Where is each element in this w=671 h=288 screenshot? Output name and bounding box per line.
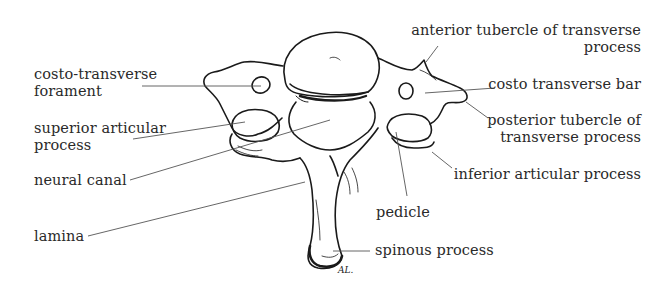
label-lamina: lamina bbox=[34, 228, 84, 245]
spinous-process-tip bbox=[309, 246, 342, 267]
vertebral-body bbox=[284, 32, 379, 97]
right-lamina bbox=[335, 128, 378, 256]
artist-signature: AL. bbox=[338, 265, 353, 275]
right-superior-articular-facet bbox=[387, 114, 431, 142]
left-transverse-process bbox=[204, 61, 283, 136]
label-spinous-process: spinous process bbox=[375, 242, 494, 259]
vertebra-diagram: costo-transverse forament superior artic… bbox=[0, 0, 671, 288]
label-costo-transverse-foramen: costo-transverse forament bbox=[34, 66, 157, 100]
label-neural-canal: neural canal bbox=[34, 172, 127, 189]
right-costo-transverse-foramen bbox=[399, 83, 413, 99]
label-pedicle: pedicle bbox=[376, 204, 430, 221]
leader-posterior-tubercle bbox=[466, 102, 488, 118]
left-costo-transverse-foramen bbox=[250, 74, 272, 95]
leader-inferior-articular-process bbox=[432, 152, 452, 168]
label-costo-transverse-bar: costo transverse bar bbox=[488, 76, 641, 93]
label-superior-articular-process: superior articular process bbox=[34, 120, 166, 154]
neural-canal bbox=[289, 102, 375, 150]
label-anterior-tubercle: anterior tubercle of transverse process bbox=[411, 22, 641, 56]
leader-lamina bbox=[88, 182, 305, 236]
label-inferior-articular-process: inferior articular process bbox=[454, 166, 641, 183]
label-posterior-tubercle: posterior tubercle of transverse process bbox=[487, 112, 641, 146]
left-superior-articular-facet bbox=[232, 110, 279, 142]
